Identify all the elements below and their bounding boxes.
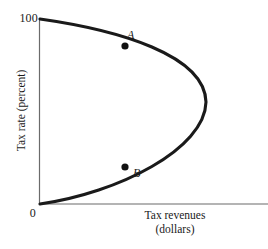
point-a-label: A <box>127 29 134 41</box>
point-a-marker <box>121 42 128 49</box>
origin-tick-0: 0 <box>20 207 36 219</box>
y-axis-tick-100: 100 <box>12 12 38 24</box>
point-b-label: B <box>133 167 140 179</box>
y-axis-title: Tax rate (percent) <box>15 36 28 186</box>
x-axis-title-main: Tax revenues <box>145 209 206 221</box>
x-axis-title: Tax revenues (dollars) <box>108 208 242 236</box>
x-axis-title-unit: (dollars) <box>108 222 242 236</box>
laffer-curve-figure: 100 0 Tax rate (percent) Tax revenues (d… <box>0 0 268 249</box>
point-b-marker <box>121 163 128 170</box>
